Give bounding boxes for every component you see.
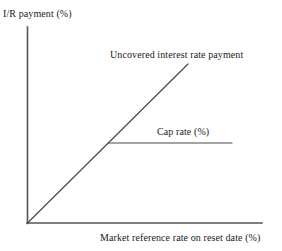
- uncovered-payment-annotation: Uncovered interest rate payment: [110, 49, 243, 60]
- cap-rate-annotation: Cap rate (%): [157, 126, 209, 137]
- plot-area: [0, 0, 282, 251]
- x-axis-label: Market reference rate on reset date (%): [100, 232, 260, 243]
- y-axis-label: I/R payment (%): [3, 8, 72, 19]
- interest-rate-cap-payoff-figure: I/R payment (%) Market reference rate on…: [0, 0, 282, 251]
